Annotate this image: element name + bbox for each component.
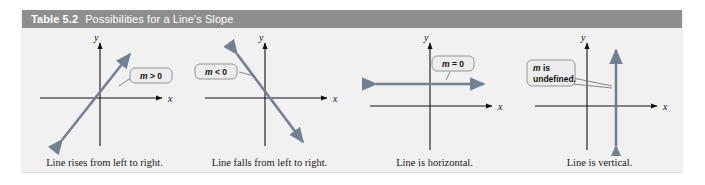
- y-axis-label: y: [423, 32, 429, 43]
- panel-positive-slope: x y m > 0 Line rises from left to right.: [22, 28, 187, 172]
- slope-line-positive: [62, 54, 130, 140]
- callout-rest: = 0: [450, 59, 465, 69]
- panel-caption: Line is horizontal.: [352, 157, 517, 168]
- panel-caption: Line falls from left to right.: [187, 157, 352, 168]
- panel-zero-slope: x y m = 0 Line is horizontal.: [352, 28, 517, 172]
- callout-line2: undefined.: [533, 74, 576, 84]
- y-axis-label: y: [93, 32, 99, 43]
- table-figure: Table 5.2 Possibilities for a Line's Slo…: [22, 10, 682, 172]
- callout-pointer: [446, 72, 450, 80]
- panel-caption: Line rises from left to right.: [22, 157, 187, 168]
- graph-positive-slope: x y m > 0: [22, 28, 187, 156]
- graph-undefined-slope: x y m is undefined.: [517, 28, 682, 156]
- callout-rest: > 0: [148, 71, 163, 81]
- svg-text:m > 0: m > 0: [140, 71, 162, 81]
- x-axis-label: x: [167, 93, 173, 104]
- graph-zero-slope: x y m = 0: [352, 28, 517, 156]
- svg-text:m = 0: m = 0: [442, 59, 464, 69]
- panel-undefined-slope: x y m is undefined. Line is vertical.: [517, 28, 682, 172]
- panels-row: x y m > 0 Line rises from left to right.: [22, 28, 682, 172]
- x-axis-label: x: [497, 101, 503, 112]
- y-axis-label: y: [258, 32, 264, 43]
- panel-negative-slope: x y m < 0 Line falls from left to right.: [187, 28, 352, 172]
- table-header: Table 5.2 Possibilities for a Line's Slo…: [22, 10, 682, 28]
- callout-zero: m = 0: [432, 56, 474, 71]
- callout-positive: m > 0: [130, 68, 172, 83]
- svg-text:m is: m is: [533, 63, 550, 73]
- x-axis-label: x: [662, 101, 668, 112]
- x-axis-label: x: [332, 93, 338, 104]
- panel-caption: Line is vertical.: [517, 157, 682, 168]
- table-title: Possibilities for a Line's Slope: [85, 13, 233, 25]
- table-number: Table 5.2: [31, 13, 78, 25]
- callout-negative: m < 0: [195, 64, 237, 79]
- callout-rest: is: [541, 63, 551, 73]
- callout-rest: < 0: [213, 67, 228, 77]
- svg-text:m < 0: m < 0: [205, 67, 227, 77]
- callout-undefined: m is undefined.: [527, 60, 576, 86]
- graph-negative-slope: x y m < 0: [187, 28, 352, 156]
- y-axis-label: y: [580, 32, 586, 43]
